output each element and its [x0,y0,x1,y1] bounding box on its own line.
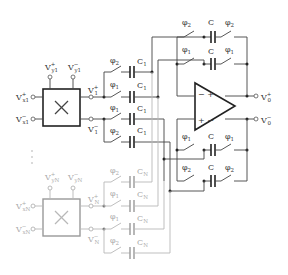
output-terminal-v0-plus [254,94,258,98]
input-terminal-vy1-plus [48,75,52,79]
switch-phi1 [111,91,121,97]
svg-text:φ2: φ2 [225,18,234,28]
svg-text:CN: CN [137,190,148,200]
output-terminal-v0-minus [254,117,258,121]
label-v1-minus: V−1 [87,123,99,135]
svg-text:φ2: φ2 [110,56,119,66]
svg-text:C: C [208,18,214,27]
svg-text:φ1: φ1 [182,132,191,142]
svg-text:φ2: φ2 [110,236,119,246]
switch-phi2 [184,31,194,37]
svg-text:V−xN: V−xN [15,223,30,235]
multiplier-n: V+xN V−xN V+yN V−yN V+N V−N φ2 CN φ1 CN … [15,72,170,259]
svg-text:φ1: φ1 [110,80,119,90]
switch-phi1 [221,58,231,64]
input-terminal-vy1-minus [71,75,75,79]
svg-text:C1: C1 [137,104,147,114]
label-v0-minus: V−0 [260,114,272,126]
input-terminal-vx1-plus [31,95,35,99]
svg-text:φ2: φ2 [182,163,191,173]
feedback-bottom: φ1 C φ1 φ2 C φ2 [176,119,249,191]
switch-phi2 [184,175,194,181]
switch-phi2 [221,175,231,181]
switch-phi1 [221,144,231,150]
label-vx1-minus: V−x1 [15,113,29,125]
svg-text:V+xN: V+xN [15,200,30,212]
svg-text:CN: CN [137,214,148,224]
svg-text:C1: C1 [137,57,147,67]
svg-text:C: C [208,47,214,56]
ellipsis-dots [31,150,33,164]
multiplier-1: V+x1 V−x1 V+y1 V−y1 V+1 V−1 [15,61,104,135]
opamp-plus: + − [198,116,214,125]
svg-text:φ1: φ1 [182,45,191,55]
input-cap-ladder-1: φ2 C1 φ1 C1 φ1 C1 φ2 C1 [103,56,171,148]
svg-text:C: C [208,163,214,172]
label-vy1-plus: V+y1 [44,61,58,74]
opamp: − + + − V+0 V−0 [177,60,272,159]
svg-text:V+yN: V+yN [44,171,59,184]
svg-text:CN: CN [137,167,148,177]
svg-text:φ2: φ2 [110,166,119,176]
label-v1-plus: V+1 [87,84,99,96]
svg-text:φ1: φ1 [110,103,119,113]
svg-text:V+N: V+N [87,193,99,205]
switch-phi1 [184,144,194,150]
svg-text:φ1: φ1 [225,132,234,142]
svg-text:C1: C1 [137,81,147,91]
svg-text:φ1: φ1 [110,212,119,222]
input-terminal-vx1-minus [31,117,35,121]
feedback-top: φ2 C φ2 φ1 C φ1 [176,18,249,96]
svg-text:V−yN: V−yN [67,171,82,184]
circuit-diagram: V+x1 V−x1 V+y1 V−y1 V+1 V−1 φ2 C1 φ1 C1 [0,0,288,275]
svg-text:C: C [208,132,214,141]
switch-phi2 [111,66,121,72]
label-v0-plus: V+0 [260,91,272,103]
svg-text:φ2: φ2 [182,18,191,28]
switch-phi1 [111,113,121,119]
label-vy1-minus: V−y1 [67,61,81,74]
svg-text:φ1: φ1 [110,189,119,199]
svg-text:φ1: φ1 [225,45,234,55]
svg-text:C1: C1 [137,126,147,136]
svg-text:φ2: φ2 [110,126,119,136]
svg-text:φ2: φ2 [225,163,234,173]
switch-phi2 [221,31,231,37]
label-vx1-plus: V+x1 [15,91,29,103]
opamp-minus: − + [198,90,214,99]
switch-phi2 [111,136,121,142]
svg-text:V−N: V−N [87,233,99,245]
svg-text:CN: CN [137,238,148,248]
switch-phi1 [184,58,194,64]
